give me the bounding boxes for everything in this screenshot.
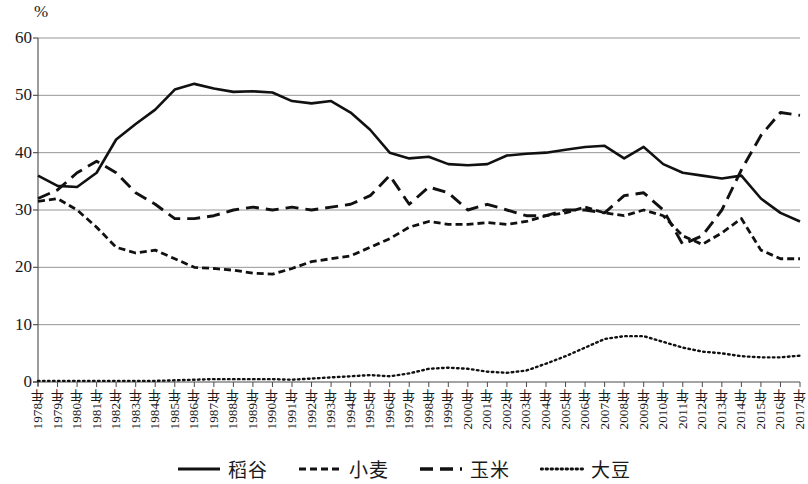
y-tick-label-30: 30 [0,201,32,218]
x-tick-label: 2006年 [578,390,591,429]
legend-label: 大豆 [591,455,631,482]
legend-swatch-dashed [419,462,463,476]
x-tick-label: 1984年 [148,390,161,429]
x-tick-label: 2010年 [656,390,669,429]
chart-figure: % 6050403020100 1978年1979年1980年1981年1982… [0,0,808,484]
x-tick-label: 1998年 [422,390,435,429]
x-tick-label: 1995年 [363,390,376,429]
x-tick-label: 1987年 [207,390,220,429]
x-tick-label: 1981年 [90,390,103,429]
legend-item-大豆[interactable]: 大豆 [540,455,631,482]
x-tick-label: 1986年 [187,390,200,429]
x-tick-label: 2015年 [754,390,767,429]
y-tick-label-0: 0 [0,373,32,390]
y-axis-unit-label: % [34,2,48,22]
x-tick-label: 1994年 [344,390,357,429]
legend-item-小麦[interactable]: 小麦 [298,455,389,482]
y-tick-label-40: 40 [0,144,32,161]
x-tick-label: 1979年 [51,390,64,429]
x-tick-label: 1993年 [324,390,337,429]
x-tick-label: 1983年 [129,390,142,429]
y-tick-label-60: 60 [0,29,32,46]
y-tick-label-10: 10 [0,316,32,333]
legend-swatch-dotted-dash [298,462,342,476]
x-tick-label: 1989年 [246,390,259,429]
x-tick-label: 2017年 [793,390,806,429]
x-tick-label: 1978年 [31,390,44,429]
x-tick-label: 1999年 [441,390,454,429]
x-tick-label: 2008年 [617,390,630,429]
legend-item-稻谷[interactable]: 稻谷 [177,455,268,482]
x-tick-label: 2007年 [598,390,611,429]
series-line-3 [38,336,800,381]
legend-label: 玉米 [470,455,510,482]
y-tick-label-50: 50 [0,86,32,103]
legend-swatch-solid [177,462,221,476]
x-tick-label: 2003年 [519,390,532,429]
x-tick-label: 2011年 [676,390,689,429]
x-tick-label: 2000年 [461,390,474,429]
x-tick-label: 2001年 [480,390,493,429]
chart-legend: 稻谷小麦玉米大豆 [0,455,808,482]
x-tick-label: 2013年 [715,390,728,429]
x-tick-label: 1991年 [285,390,298,429]
x-tick-label: 2016年 [773,390,786,429]
x-tick-label: 1997年 [402,390,415,429]
x-tick-label: 1985年 [168,390,181,429]
x-tick-label: 1988年 [226,390,239,429]
x-tick-label: 2014年 [734,390,747,429]
x-tick-label: 1996年 [383,390,396,429]
x-tick-label: 1982年 [109,390,122,429]
legend-label: 稻谷 [228,455,268,482]
y-tick-label-20: 20 [0,258,32,275]
x-tick-label: 2002年 [500,390,513,429]
legend-label: 小麦 [349,455,389,482]
x-tick-label: 2009年 [637,390,650,429]
x-tick-label: 2004年 [539,390,552,429]
legend-item-玉米[interactable]: 玉米 [419,455,510,482]
legend-swatch-dotted [540,462,584,476]
x-tick-label: 1992年 [305,390,318,429]
x-tick-label: 1990年 [265,390,278,429]
x-tick-label: 2005年 [559,390,572,429]
x-tick-label: 2012年 [695,390,708,429]
x-tick-label: 1980年 [70,390,83,429]
